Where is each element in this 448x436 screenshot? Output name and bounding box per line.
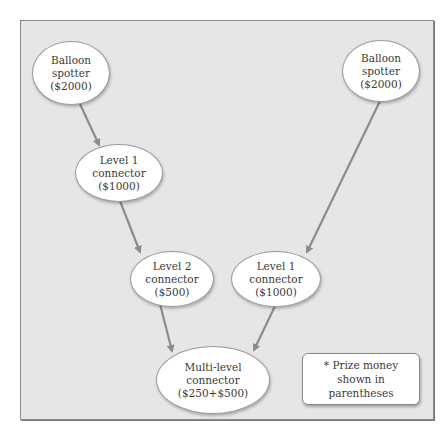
node-balloon-spotter-left: Balloon spotter ($2000): [32, 41, 110, 105]
edge-level2-to-multi: [160, 304, 172, 351]
node-level1-connector-right: Level 1 connector ($1000): [231, 251, 321, 307]
node-line: connector: [186, 374, 239, 387]
node-level2-connector: Level 2 connector ($500): [130, 251, 214, 307]
edge-level1-left-to-level2: [120, 201, 140, 252]
node-line: Multi-level: [184, 361, 241, 374]
node-multi-level-connector: Multi-level connector ($250+$500): [156, 346, 270, 414]
node-balloon-spotter-right: Balloon spotter ($2000): [342, 40, 420, 102]
node-level1-connector-left: Level 1 connector ($1000): [75, 144, 163, 202]
node-line: ($1000): [98, 180, 140, 193]
node-line: ($500): [155, 286, 190, 299]
node-line: ($2000): [360, 78, 402, 91]
edge-spotter-left-to-level1-left: [80, 104, 99, 145]
node-line: ($1000): [255, 286, 297, 299]
node-line: Balloon: [361, 52, 401, 65]
node-line: Level 1: [257, 260, 296, 273]
node-line: Balloon: [51, 54, 91, 67]
node-line: ($250+$500): [178, 387, 248, 400]
node-line: Level 1: [100, 154, 139, 167]
node-line: connector: [92, 167, 145, 180]
node-line: connector: [145, 273, 198, 286]
node-line: Level 2: [153, 260, 192, 273]
edge-level1-right-to-multi: [254, 304, 276, 350]
node-line: ($2000): [50, 80, 92, 93]
node-line: spotter: [52, 67, 90, 80]
edge-spotter-right-to-level1-right: [307, 101, 380, 252]
node-line: connector: [249, 273, 302, 286]
prize-money-note: * Prize money shown in parentheses: [302, 353, 420, 405]
node-line: spotter: [362, 65, 400, 78]
